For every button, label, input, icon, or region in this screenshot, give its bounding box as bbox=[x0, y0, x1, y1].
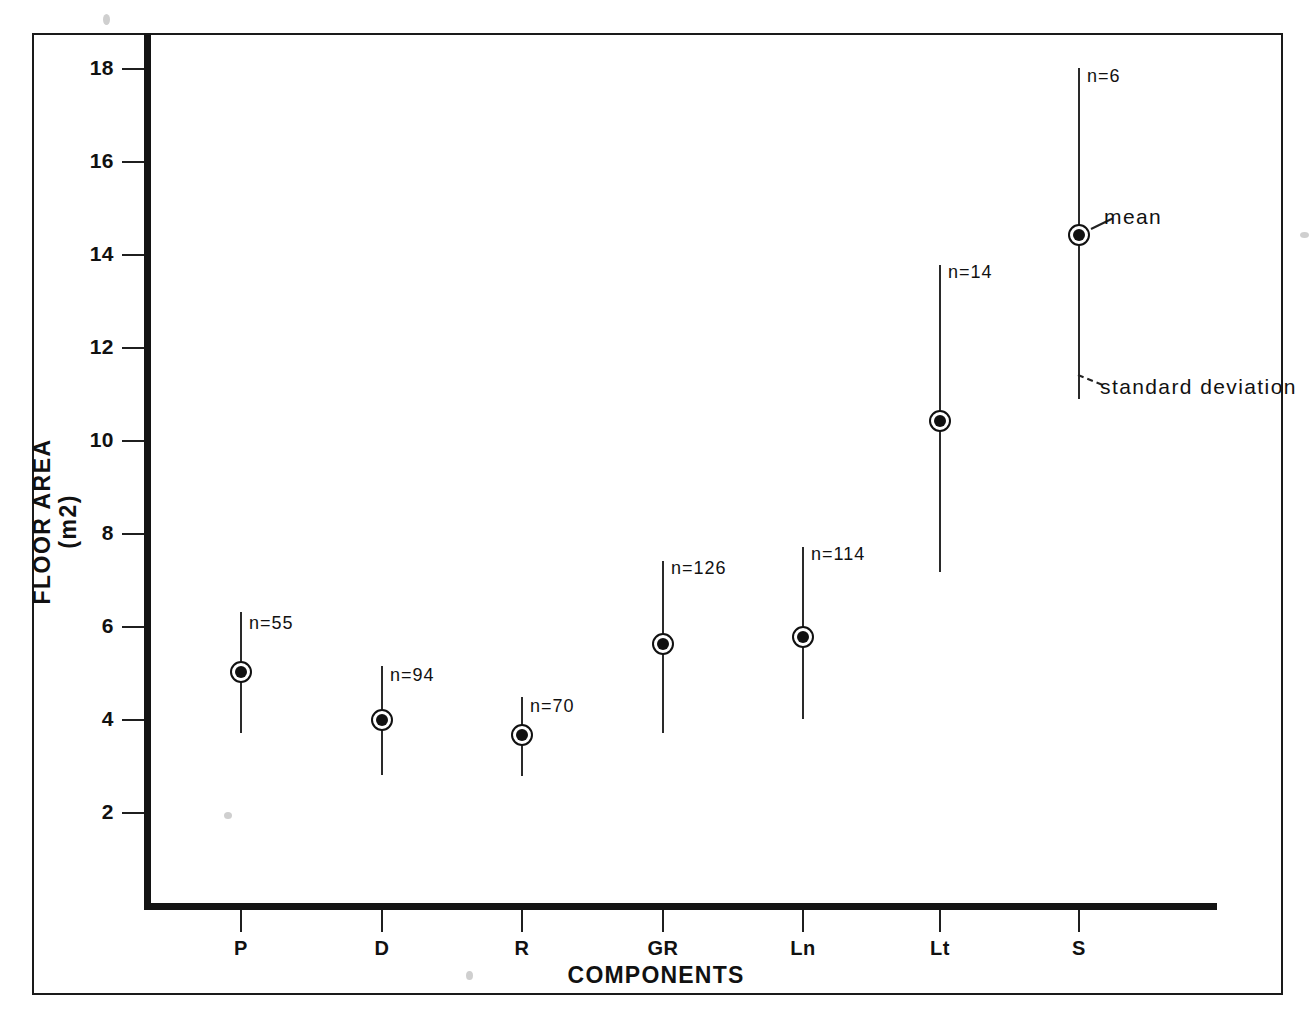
mean-marker-Ln[interactable] bbox=[792, 626, 814, 648]
x-tick-label-D: D bbox=[342, 937, 422, 960]
standard-deviation-leader-line bbox=[1078, 374, 1103, 386]
sample-size-label-Lt: n=14 bbox=[948, 262, 993, 283]
mean-marker-R[interactable] bbox=[511, 724, 533, 746]
y-tick-mark-2 bbox=[122, 812, 144, 814]
standard-deviation-annotation: standard deviation bbox=[1100, 375, 1297, 399]
mean-annotation: mean bbox=[1104, 205, 1162, 229]
y-tick-label-4: 4 bbox=[68, 707, 114, 731]
x-tick-mark-D bbox=[381, 910, 383, 932]
x-tick-mark-P bbox=[240, 910, 242, 932]
y-tick-mark-10 bbox=[122, 440, 144, 442]
y-tick-mark-6 bbox=[122, 626, 144, 628]
x-tick-mark-Ln bbox=[802, 910, 804, 932]
y-tick-label-14: 14 bbox=[68, 242, 114, 266]
mean-marker-D[interactable] bbox=[371, 709, 393, 731]
y-tick-mark-16 bbox=[122, 161, 144, 163]
y-axis-title-line2: (m2) bbox=[55, 494, 81, 549]
sample-size-label-P: n=55 bbox=[249, 613, 294, 634]
mean-marker-Lt[interactable] bbox=[929, 410, 951, 432]
y-axis-spine bbox=[144, 33, 151, 910]
mean-marker-S[interactable] bbox=[1068, 224, 1090, 246]
sample-size-label-S: n=6 bbox=[1087, 66, 1121, 87]
scan-artifact bbox=[224, 812, 232, 819]
y-tick-label-18: 18 bbox=[68, 56, 114, 80]
y-tick-mark-12 bbox=[122, 347, 144, 349]
mean-marker-P[interactable] bbox=[230, 661, 252, 683]
x-tick-label-Lt: Lt bbox=[900, 937, 980, 960]
y-tick-mark-14 bbox=[122, 254, 144, 256]
y-tick-label-16: 16 bbox=[68, 149, 114, 173]
x-tick-mark-Lt bbox=[939, 910, 941, 932]
x-tick-mark-R bbox=[521, 910, 523, 932]
y-axis-title-line1: FLOOR AREA bbox=[29, 438, 55, 604]
x-axis-spine bbox=[144, 903, 1217, 910]
y-tick-mark-4 bbox=[122, 719, 144, 721]
y-tick-label-2: 2 bbox=[68, 800, 114, 824]
x-tick-label-GR: GR bbox=[623, 937, 703, 960]
sample-size-label-GR: n=126 bbox=[671, 558, 727, 579]
figure-canvas: 18 16 14 12 10 8 6 4 2 FLOOR AREA (m2) P… bbox=[0, 0, 1312, 1026]
x-axis-title: COMPONENTS bbox=[0, 962, 1312, 989]
x-tick-mark-GR bbox=[662, 910, 664, 932]
x-tick-label-S: S bbox=[1039, 937, 1119, 960]
mean-marker-GR[interactable] bbox=[652, 633, 674, 655]
y-tick-mark-8 bbox=[122, 533, 144, 535]
scan-artifact bbox=[1300, 232, 1309, 238]
x-tick-label-Ln: Ln bbox=[763, 937, 843, 960]
y-axis-title: FLOOR AREA (m2) bbox=[29, 411, 82, 631]
x-tick-label-R: R bbox=[482, 937, 562, 960]
sample-size-label-R: n=70 bbox=[530, 696, 575, 717]
sample-size-label-Ln: n=114 bbox=[811, 544, 865, 565]
x-tick-mark-S bbox=[1078, 910, 1080, 932]
x-tick-label-P: P bbox=[201, 937, 281, 960]
scan-artifact bbox=[103, 14, 110, 25]
y-tick-mark-18 bbox=[122, 68, 144, 70]
plot-area: 18 16 14 12 10 8 6 4 2 FLOOR AREA (m2) P… bbox=[0, 0, 1312, 1026]
y-tick-label-12: 12 bbox=[68, 335, 114, 359]
sample-size-label-D: n=94 bbox=[390, 665, 435, 686]
